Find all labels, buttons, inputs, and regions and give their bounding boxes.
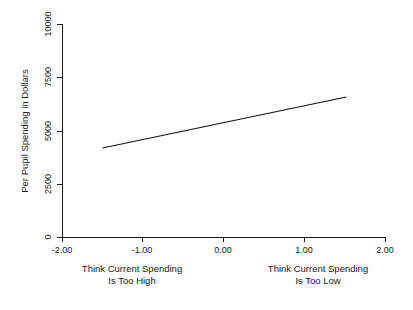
y-tick-label-10000: 10000 xyxy=(43,11,53,36)
chart-figure: 0 2500 5000 7500 10000 Per Pupil Spendin… xyxy=(0,0,413,310)
x-tick-label-pos2: 2.00 xyxy=(376,245,394,255)
y-axis-title: Per Pupil Spending in Dollars xyxy=(19,69,30,193)
right-annotation-line1: Think Current Spending xyxy=(268,263,368,274)
x-tick-label-neg2: -2.00 xyxy=(52,245,73,255)
x-tick-label-0: 0.00 xyxy=(214,245,232,255)
left-annotation-line2: Is Too High xyxy=(108,275,155,286)
x-tick-label-pos1: 1.00 xyxy=(295,245,313,255)
left-annotation-line1: Think Current Spending xyxy=(82,263,182,274)
y-tick-label-2500: 2500 xyxy=(43,174,53,194)
data-series-line xyxy=(102,97,346,148)
y-tick-label-0: 0 xyxy=(43,234,53,239)
line-chart-canvas: 0 2500 5000 7500 10000 Per Pupil Spendin… xyxy=(0,0,413,310)
y-tick-label-5000: 5000 xyxy=(43,121,53,141)
x-tick-label-neg1: -1.00 xyxy=(132,245,153,255)
right-annotation-line2: Is Too Low xyxy=(295,275,340,286)
y-tick-label-7500: 7500 xyxy=(43,67,53,87)
